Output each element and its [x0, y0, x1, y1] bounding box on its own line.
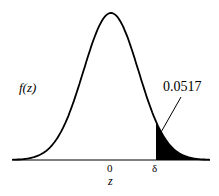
tick-label-delta: δ [152, 163, 157, 174]
x-axis-label: z [108, 175, 113, 187]
annotation-arrow [160, 97, 181, 134]
normal-distribution-figure: f(z) 0.0517 0 δ z [0, 0, 219, 196]
tail-probability-label: 0.0517 [163, 80, 202, 94]
tick-label-zero: 0 [107, 163, 113, 174]
y-axis-label: f(z) [19, 81, 36, 94]
